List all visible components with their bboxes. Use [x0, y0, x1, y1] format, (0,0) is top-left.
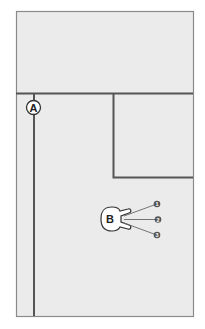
marker-a-label: A — [30, 102, 38, 114]
callout-3-label: 3 — [155, 232, 158, 238]
diagram-canvas: A B 1 2 3 — [0, 0, 205, 329]
marker-a: A — [27, 101, 41, 115]
callout-2-label: 2 — [156, 217, 159, 223]
callout-1-label: 1 — [155, 201, 158, 207]
callout-3: 3 — [154, 232, 161, 239]
callout-1: 1 — [154, 201, 161, 208]
callout-2: 2 — [155, 216, 162, 223]
marker-b-label: B — [106, 213, 114, 225]
outer-frame — [17, 12, 194, 317]
